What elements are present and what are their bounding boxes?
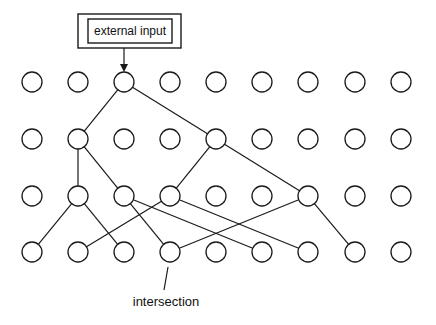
grid-node-r0-c2 xyxy=(114,72,134,92)
edge xyxy=(133,87,208,133)
grid-node-r2-c1 xyxy=(68,186,88,206)
grid-node-r3-c6 xyxy=(298,242,318,262)
grid-node-r2-c5 xyxy=(252,186,272,206)
grid-node-r2-c4 xyxy=(206,186,226,206)
grid-node-r1-c6 xyxy=(298,129,318,149)
grid-node-r2-c7 xyxy=(345,186,365,206)
grid-node-r1-c8 xyxy=(391,129,411,149)
grid-node-r2-c0 xyxy=(22,186,42,206)
grid-node-r2-c3 xyxy=(160,186,180,206)
neural-grid-diagram: external input intersection xyxy=(0,0,436,325)
edge xyxy=(176,147,209,188)
grid-node-r3-c5 xyxy=(252,242,272,262)
intersection-pointer-line xyxy=(164,267,168,290)
grid-node-r1-c7 xyxy=(345,129,365,149)
grid-node-r0-c3 xyxy=(160,72,180,92)
grid-node-r0-c7 xyxy=(345,72,365,92)
edge xyxy=(84,90,117,131)
grid-node-r2-c2 xyxy=(114,186,134,206)
edge xyxy=(84,147,117,188)
input-box-label: external input xyxy=(94,24,167,38)
grid-node-r3-c1 xyxy=(68,242,88,262)
grid-node-r3-c4 xyxy=(206,242,226,262)
grid-node-r3-c2 xyxy=(114,242,134,262)
grid-node-r1-c0 xyxy=(22,129,42,149)
edge xyxy=(38,204,71,245)
edge xyxy=(225,144,300,190)
grid-node-r2-c8 xyxy=(391,186,411,206)
grid-node-r1-c2 xyxy=(114,129,134,149)
grid-node-r0-c6 xyxy=(298,72,318,92)
grid-node-r3-c8 xyxy=(391,242,411,262)
grid-node-r0-c5 xyxy=(252,72,272,92)
grid-node-r1-c3 xyxy=(160,129,180,149)
grid-node-r3-c3 xyxy=(160,242,180,262)
grid-node-r0-c4 xyxy=(206,72,226,92)
grid-node-r2-c6 xyxy=(298,186,318,206)
grid-node-r3-c7 xyxy=(345,242,365,262)
grid-node-r1-c5 xyxy=(252,129,272,149)
grid-node-r0-c1 xyxy=(68,72,88,92)
edge xyxy=(87,201,162,247)
grid-node-r1-c1 xyxy=(68,129,88,149)
external-input-box: external input xyxy=(78,14,181,48)
grid-node-r3-c0 xyxy=(22,242,42,262)
grid-node-r0-c0 xyxy=(22,72,42,92)
edge xyxy=(314,204,348,245)
grid-node-r0-c8 xyxy=(391,72,411,92)
intersection-label: intersection xyxy=(133,294,199,309)
grid-node-r1-c4 xyxy=(206,129,226,149)
edges xyxy=(38,87,348,248)
